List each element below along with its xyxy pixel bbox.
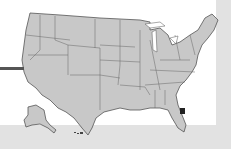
hawaii: [74, 132, 83, 134]
alaska: [24, 105, 56, 133]
us-map: [0, 0, 231, 149]
highlighted-region: [180, 108, 185, 114]
pointer-line: [0, 67, 24, 70]
